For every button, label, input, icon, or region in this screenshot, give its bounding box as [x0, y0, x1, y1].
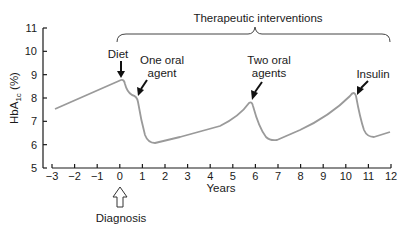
therapeutic-brace — [117, 27, 390, 42]
x-tick-label: −1 — [91, 170, 104, 182]
y-tick-label: 10 — [25, 45, 37, 57]
x-tick-label: 11 — [363, 170, 374, 182]
two-oral-label-line2: agents — [252, 67, 287, 79]
insulin-label: Insulin — [356, 68, 389, 80]
x-tick-label: 10 — [340, 170, 352, 182]
x-tick-label: −2 — [68, 170, 81, 182]
y-tick-label: 6 — [31, 139, 37, 151]
two-oral-label-line1: Two oral — [247, 54, 290, 66]
x-tick-label: 2 — [162, 170, 168, 182]
hba1c-chart: Therapeutic interventions 567891011 −3−2… — [0, 0, 405, 230]
diagnosis-label: Diagnosis — [96, 212, 147, 224]
y-axis: 567891011 — [25, 22, 47, 174]
therapeutic-label: Therapeutic interventions — [193, 12, 322, 24]
x-tick-label: 5 — [230, 170, 236, 182]
x-tick-label: 8 — [298, 170, 304, 182]
x-tick-label: 0 — [117, 170, 123, 182]
two-oral-arrow-icon — [251, 82, 262, 100]
y-tick-label: 9 — [31, 69, 37, 81]
x-tick-label: 9 — [320, 170, 326, 182]
diet-arrow-icon — [117, 61, 125, 78]
x-tick-label: 4 — [207, 170, 213, 182]
x-tick-label: 7 — [275, 170, 281, 182]
x-axis-title: Years — [207, 182, 236, 194]
y-tick-label: 11 — [26, 22, 37, 34]
y-tick-label: 8 — [31, 92, 37, 104]
y-axis-title: HbA1c (%) — [8, 72, 23, 124]
hba1c-line — [55, 80, 390, 143]
insulin-arrow-icon — [357, 81, 368, 95]
x-tick-label: 3 — [185, 170, 191, 182]
one-oral-arrow-icon — [137, 80, 147, 96]
one-oral-label-line2: agent — [148, 67, 178, 79]
y-tick-label: 5 — [31, 162, 37, 174]
x-tick-label: 6 — [252, 170, 258, 182]
y-tick-label: 7 — [31, 115, 37, 127]
x-tick-label: 12 — [385, 170, 397, 182]
x-tick-label: 1 — [139, 170, 145, 182]
one-oral-label-line1: One oral — [140, 54, 184, 66]
svg-text:HbA1c (%): HbA1c (%) — [8, 72, 23, 124]
diagnosis-arrow-icon — [113, 187, 127, 207]
x-tick-label: −3 — [46, 170, 59, 182]
x-axis: −3−2−10123456789101112 — [46, 164, 397, 182]
diet-label: Diet — [108, 48, 129, 60]
